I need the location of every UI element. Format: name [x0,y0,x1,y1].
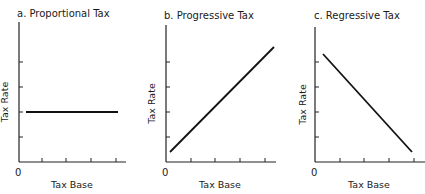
y-axis-label: Tax Rate [297,84,308,126]
chart-panel-c: c. Regressive Tax0Tax BaseTax Rate [297,10,425,190]
x-axis-label: Tax Base [198,179,241,190]
panel-title: b. Progressive Tax [164,10,254,21]
x-axis-label: Tax Base [347,179,390,190]
origin-label: 0 [311,167,317,178]
origin-label: 0 [15,167,21,178]
panel-title: a. Proportional Tax [17,8,110,19]
charts-canvas: a. Proportional Tax0Tax BaseTax Rateb. P… [0,0,425,194]
chart-panel-b: b. Progressive Tax0Tax BaseTax Rate [146,10,276,190]
tax-structure-figure: a. Proportional Tax0Tax BaseTax Rateb. P… [0,0,425,194]
chart-panel-a: a. Proportional Tax0Tax BaseTax Rate [0,8,126,190]
origin-label: 0 [162,167,168,178]
tax-rate-line [170,47,274,152]
y-axis-label: Tax Rate [146,83,157,125]
x-axis-label: Tax Base [50,179,93,190]
tax-rate-line [323,54,412,152]
panel-title: c. Regressive Tax [314,10,400,21]
y-axis-label: Tax Rate [0,82,10,124]
